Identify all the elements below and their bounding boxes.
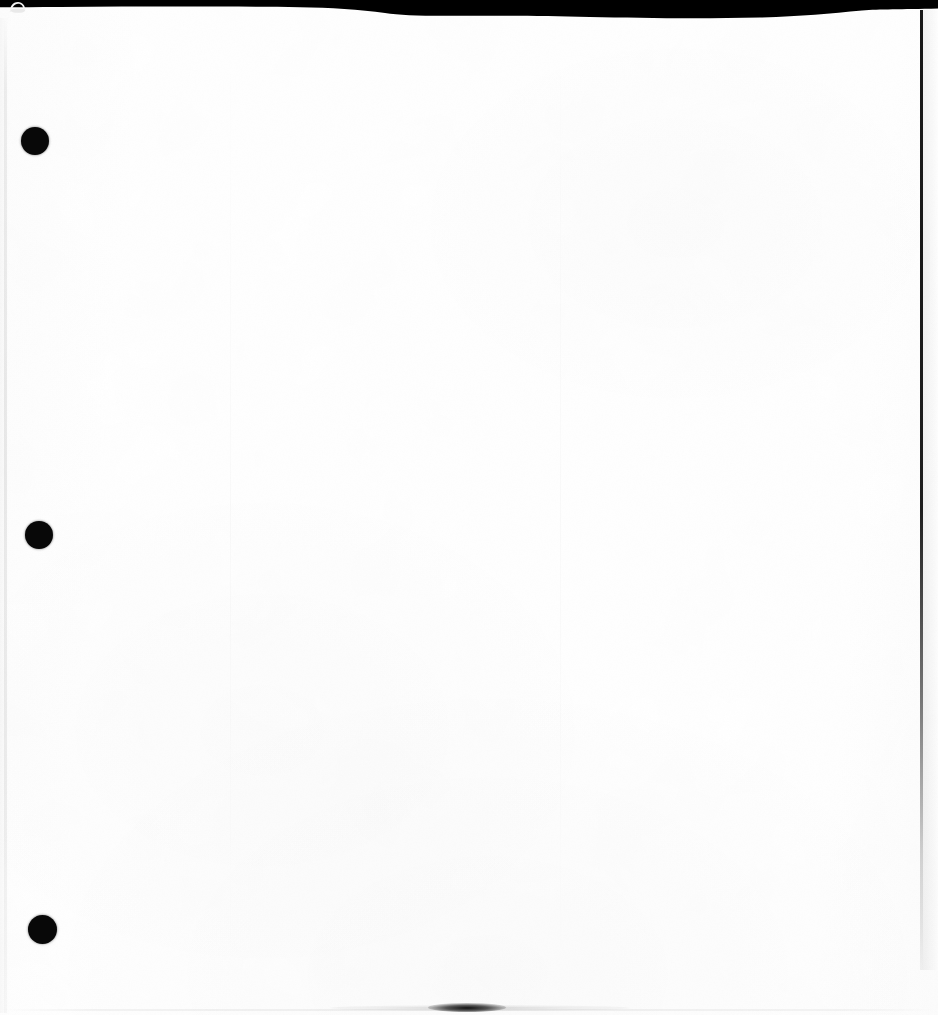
hole-punch-2 <box>25 521 53 549</box>
scanned-page <box>0 0 938 1015</box>
paper-sheet <box>0 0 938 1015</box>
hole-punch-3 <box>28 915 57 944</box>
hole-punch-1 <box>21 127 49 155</box>
